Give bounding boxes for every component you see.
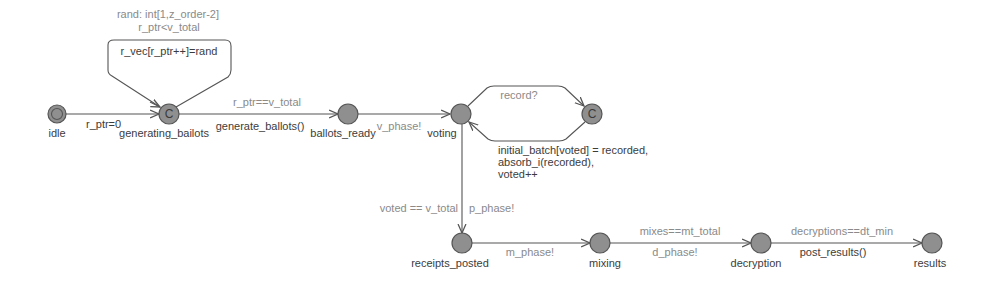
update-label-line-1: initial_batch[voted] = recorded, <box>498 144 648 156</box>
sync-label: d_phase! <box>652 246 697 258</box>
location-icon <box>338 104 358 124</box>
automaton-diagram: r_ptr=0 rand: int[1,z_order-2] r_ptr<v_t… <box>0 0 988 290</box>
guard-label: mixes==mt_total <box>640 225 721 237</box>
location-label: voting <box>427 127 456 139</box>
update-label-line-3: voted++ <box>498 168 538 180</box>
location-label: decryption <box>731 257 782 269</box>
update-label: post_results() <box>800 246 867 258</box>
update-label: generate_ballots() <box>216 120 305 132</box>
location-label: idle <box>48 127 65 139</box>
location-icon <box>751 233 771 253</box>
guard-label: voted == v_total <box>380 202 458 214</box>
location-mixing[interactable]: mixing <box>589 233 621 269</box>
initial-location-icon <box>48 105 66 123</box>
guard-label: r_ptr<v_total <box>138 21 199 33</box>
location-generating-bailots[interactable]: C generating_bailots <box>119 104 209 139</box>
location-voting[interactable]: voting <box>427 104 471 139</box>
location-label: receipts_posted <box>411 257 489 269</box>
edge-generating-self-loop[interactable]: rand: int[1,z_order-2] r_ptr<v_total r_v… <box>108 8 231 107</box>
location-icon <box>922 233 942 253</box>
committed-mark: C <box>165 107 174 121</box>
location-icon <box>451 104 471 124</box>
sync-label: m_phase! <box>506 246 554 258</box>
edge-decryption-to-results[interactable]: decryptions==dt_min post_results() <box>771 225 922 258</box>
location-icon <box>590 233 610 253</box>
sync-label: v_phase! <box>377 120 422 132</box>
guard-label: r_ptr==v_total <box>233 96 301 108</box>
update-label: r_ptr=0 <box>86 118 121 130</box>
location-label: ballots_ready <box>310 127 376 139</box>
select-label: rand: int[1,z_order-2] <box>117 8 219 20</box>
edge-voting-to-record[interactable]: record? <box>468 86 584 106</box>
location-idle[interactable]: idle <box>48 105 66 139</box>
sync-label: record? <box>500 89 537 101</box>
edge-voting-to-receipts[interactable]: voted == v_total p_phase! <box>380 124 515 233</box>
location-ballots-ready[interactable]: ballots_ready <box>310 104 376 139</box>
location-label: generating_bailots <box>119 127 209 139</box>
location-results[interactable]: results <box>914 233 947 269</box>
guard-label: decryptions==dt_min <box>791 225 893 237</box>
location-receipts-posted[interactable]: receipts_posted <box>411 233 489 269</box>
edge-receipts-to-mixing[interactable]: m_phase! <box>472 243 590 258</box>
location-label: results <box>914 257 947 269</box>
location-label: mixing <box>589 257 621 269</box>
committed-mark: C <box>588 107 597 121</box>
update-label-line-2: absorb_i(recorded), <box>498 156 594 168</box>
location-decryption[interactable]: decryption <box>731 233 782 269</box>
edge-record-to-voting[interactable]: initial_batch[voted] = recorded, absorb_… <box>469 122 648 180</box>
sync-label: p_phase! <box>469 202 514 214</box>
location-icon <box>452 233 472 253</box>
location-record-committed[interactable]: C <box>582 104 602 124</box>
update-label: r_vec[r_ptr++]=rand <box>121 45 218 57</box>
edge-mixing-to-decryption[interactable]: mixes==mt_total d_phase! <box>610 225 751 258</box>
